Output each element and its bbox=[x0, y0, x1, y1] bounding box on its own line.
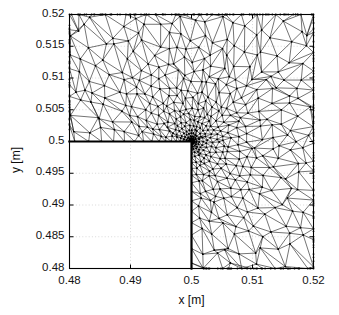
y-tick-label: 0.495 bbox=[36, 165, 65, 177]
x-tick-label: 0.51 bbox=[228, 274, 278, 286]
y-tick-label: 0.5 bbox=[49, 134, 65, 146]
x-tick-label: 0.52 bbox=[289, 274, 339, 286]
y-tick-label: 0.48 bbox=[42, 261, 64, 273]
domain-boundary-group bbox=[70, 142, 192, 269]
y-tick-label: 0.485 bbox=[36, 229, 65, 241]
y-axis-title: y [m] bbox=[9, 109, 23, 173]
y-tick-label: 0.52 bbox=[42, 7, 64, 19]
x-axis-title: x [m] bbox=[70, 293, 314, 307]
mesh-figure: 0.480.4850.490.4950.50.5050.510.5150.520… bbox=[0, 0, 339, 315]
x-tick-label: 0.48 bbox=[45, 274, 95, 286]
y-tick-label: 0.505 bbox=[36, 102, 65, 114]
y-tick-label: 0.51 bbox=[42, 70, 64, 82]
y-tick-label: 0.515 bbox=[36, 38, 65, 50]
x-tick-label: 0.5 bbox=[167, 274, 217, 286]
y-tick-label: 0.49 bbox=[42, 197, 64, 209]
x-tick-label: 0.49 bbox=[106, 274, 156, 286]
